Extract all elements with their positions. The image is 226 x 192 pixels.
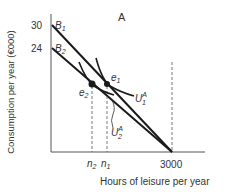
label-u1: UA1 (135, 91, 147, 106)
label-e1: e1 (111, 72, 121, 84)
point-e1 (104, 81, 110, 87)
pointer-u2 (112, 100, 115, 128)
label-u2: UA2 (111, 125, 123, 140)
y-tick-30: 30 (31, 20, 43, 31)
x-tick-3000: 3000 (160, 159, 183, 170)
x-axis-label: Hours of leisure per year (100, 176, 210, 187)
x-tick-n2: n2 (87, 158, 97, 170)
x-tick-n1: n1 (101, 158, 111, 170)
y-axis-label: Consumption per year (€000) (5, 30, 16, 154)
label-e2: e2 (79, 87, 89, 99)
y-tick-24: 24 (31, 43, 43, 54)
labour-supply-diagram: A Consumption per year (€000) 30 24 B1 B… (0, 0, 226, 192)
panel-label: A (118, 11, 126, 23)
point-e2 (89, 81, 96, 88)
